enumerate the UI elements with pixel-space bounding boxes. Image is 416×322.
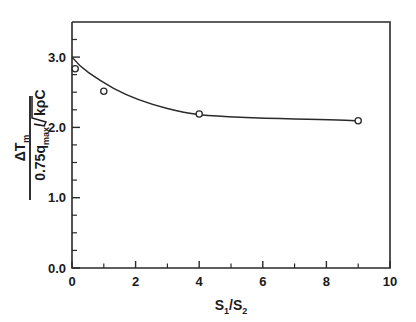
- y-axis-radicand: kρC: [32, 89, 48, 116]
- y-tick-label: 0.0: [48, 261, 66, 276]
- x-tick-label: 0: [68, 274, 75, 289]
- svg-text:kρC: kρC: [32, 89, 48, 116]
- x-tick-label: 4: [196, 274, 204, 289]
- data-point: [101, 88, 107, 94]
- x-axis-title-base1: S: [215, 297, 224, 313]
- y-tick-label: 1.0: [48, 190, 66, 205]
- data-point: [355, 118, 361, 124]
- x-tick-label: 8: [323, 274, 330, 289]
- data-point: [72, 66, 78, 72]
- chart-figure: 0.0 1.0 2.0 3.0 0 2 4 6 8 10 S1/S2 ΔTm 0…: [0, 0, 416, 322]
- y-axis-numerator-base: ΔT: [12, 142, 28, 161]
- y-tick-label: 3.0: [48, 50, 66, 65]
- y-axis-denominator-sub: max: [41, 127, 51, 145]
- x-tick-label: 6: [259, 274, 266, 289]
- y-axis-denominator-prefix: 0.75q: [32, 145, 48, 181]
- x-axis-title-sub2: 2: [242, 306, 247, 316]
- x-tick-label: 2: [132, 274, 139, 289]
- x-tick-label: 10: [383, 274, 397, 289]
- x-axis-title-base2: S: [233, 297, 242, 313]
- data-point: [196, 111, 202, 117]
